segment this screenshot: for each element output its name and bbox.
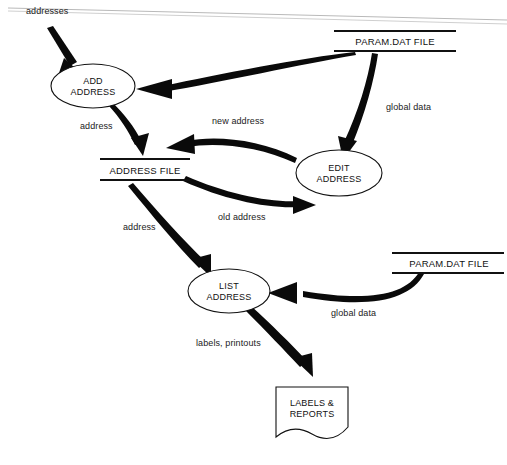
scan-edge-line-secondary <box>8 11 507 24</box>
flow-label-labels-printouts: labels, printouts <box>196 338 261 348</box>
process-edit-address-label-line1: EDIT <box>328 163 350 173</box>
data-store-address-file-label: ADDRESS FILE <box>109 165 180 176</box>
entity-labels-and-reports-label-line2: REPORTS <box>290 409 335 419</box>
diagram-page: ADD ADDRESS EDIT ADDRESS LIST ADDRESS PA… <box>0 0 507 465</box>
process-list-address[interactable]: LIST ADDRESS <box>188 269 270 313</box>
data-store-param-dat-file-top[interactable]: PARAM.DAT FILE <box>334 31 456 51</box>
flow-label-new-address: new address <box>212 116 265 126</box>
flow-label-global-data-to-list: global data <box>331 308 376 318</box>
flow-label-address-to-list: address <box>123 222 156 232</box>
process-add-address[interactable]: ADD ADDRESS <box>51 64 135 108</box>
flow-arrow-global-data-to-list <box>268 272 424 304</box>
flow-arrow-global-data-to-add <box>136 52 356 99</box>
data-flow-diagram: ADD ADDRESS EDIT ADDRESS LIST ADDRESS PA… <box>0 0 507 465</box>
data-store-param-dat-file-top-label: PARAM.DAT FILE <box>355 36 434 47</box>
entity-labels-and-reports-label-line1: LABELS & <box>290 398 334 408</box>
entity-labels-and-reports[interactable]: LABELS & REPORTS <box>276 387 348 439</box>
process-edit-address-label-line2: ADDRESS <box>317 174 362 184</box>
flow-label-addresses: addresses <box>26 6 69 16</box>
process-edit-address[interactable]: EDIT ADDRESS <box>296 150 382 196</box>
flow-arrow-old-address <box>183 176 316 214</box>
flow-label-old-address: old address <box>218 212 266 222</box>
flow-arrow-address-to-store <box>109 103 149 156</box>
data-store-param-dat-file-bottom-label: PARAM.DAT FILE <box>409 258 488 269</box>
flow-arrow-global-data-to-edit <box>338 53 378 160</box>
process-list-address-label-line1: LIST <box>219 281 239 291</box>
process-add-address-label-line2: ADDRESS <box>71 87 116 97</box>
process-list-address-label-line2: ADDRESS <box>207 292 252 302</box>
data-store-address-file[interactable]: ADDRESS FILE <box>100 159 190 180</box>
process-add-address-label-line1: ADD <box>83 76 103 86</box>
flow-label-global-data-to-edit: global data <box>386 102 431 112</box>
flow-label-address-to-store: address <box>80 121 113 131</box>
data-store-param-dat-file-bottom[interactable]: PARAM.DAT FILE <box>392 253 504 273</box>
scan-edge-line <box>8 8 507 20</box>
